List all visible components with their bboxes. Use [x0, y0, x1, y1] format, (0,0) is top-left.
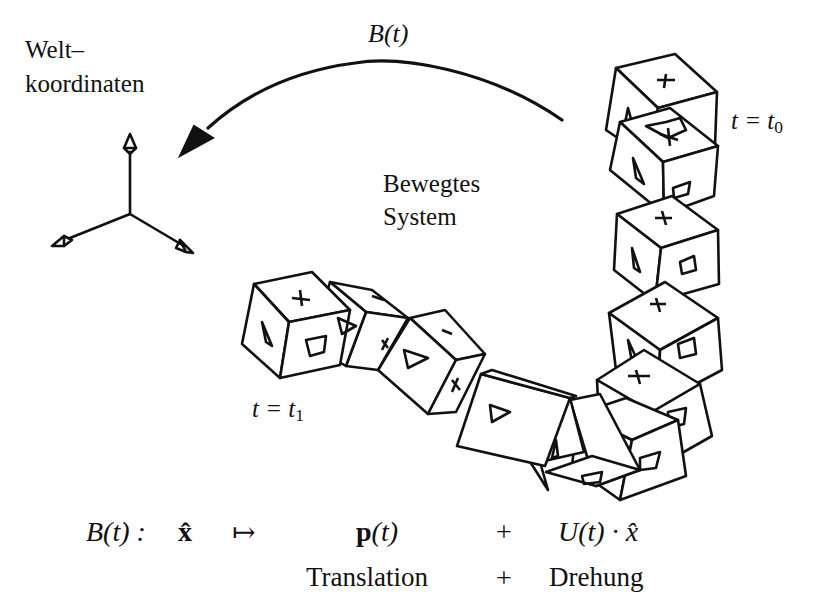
formula-translation-term: p(t): [356, 516, 398, 548]
motion-arrow-label: B(t): [368, 20, 408, 48]
formula-x-hat: x̂: [178, 516, 192, 548]
moving-system-label-line1: Bewegtes: [383, 170, 480, 198]
formula-p-vector: p: [356, 516, 372, 547]
curved-arrow-icon: [180, 61, 562, 156]
time-t1-subscript: 1: [295, 405, 304, 425]
formula-maps-to: ↦: [232, 516, 255, 549]
formula-p-arg: (t): [372, 516, 398, 547]
coordinate-axes-icon: [52, 134, 193, 253]
time-t0-subscript: 0: [774, 117, 783, 137]
plus-label: +: [496, 562, 512, 594]
world-coordinates-label-line2: koordinaten: [25, 70, 144, 98]
world-coordinates-label-line1: Welt–: [25, 36, 84, 64]
time-t0-prefix: t = t: [731, 107, 774, 134]
moving-system-label-line2: System: [383, 203, 457, 231]
time-t1-label: t = t1: [252, 395, 304, 429]
formula-plus: +: [496, 516, 512, 548]
time-t0-label: t = t0: [731, 107, 783, 141]
formula-lhs: B(t) :: [86, 516, 146, 548]
rotation-label: Drehung: [549, 562, 643, 593]
formula-rotation-term: U(t) · x̂: [558, 516, 638, 548]
translation-label: Translation: [306, 562, 428, 593]
time-t1-prefix: t = t: [252, 395, 295, 422]
